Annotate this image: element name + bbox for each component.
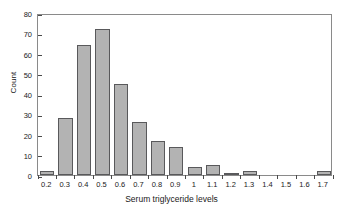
- x-tick-mark: [111, 175, 112, 179]
- y-tick-label: 20: [24, 132, 32, 141]
- y-tick-label: 80: [24, 10, 32, 19]
- histogram-figure: Count 01020304050607080 0.20.30.40.50.60…: [0, 0, 343, 213]
- y-tick-mark: [38, 96, 42, 97]
- bar-0.3: [58, 118, 72, 175]
- bar-1.2: [224, 173, 238, 175]
- y-tick-mark: [38, 116, 42, 117]
- bar-0.9: [169, 147, 183, 175]
- x-axis-title: Serum triglyceride levels: [0, 194, 343, 204]
- y-tick-mark: [38, 35, 42, 36]
- x-tick-label-1.3: 1.3: [240, 180, 258, 189]
- bar-0.7: [132, 122, 146, 175]
- x-tick-mark: [259, 175, 260, 179]
- x-tick-mark: [38, 175, 39, 179]
- y-tick-label: 30: [24, 111, 32, 120]
- y-axis-title: Count: [9, 48, 18, 118]
- bar-0.4: [77, 45, 91, 175]
- bar-0.5: [95, 29, 109, 175]
- bar-0.6: [114, 84, 128, 175]
- x-tick-mark: [93, 175, 94, 179]
- x-tick-mark: [130, 175, 131, 179]
- x-tick-label-1.5: 1.5: [277, 180, 295, 189]
- bar-0.8: [151, 141, 165, 175]
- x-tick-label-1: 1: [185, 180, 203, 189]
- x-tick-label-0.5: 0.5: [92, 180, 110, 189]
- x-tick-mark: [56, 175, 57, 179]
- y-tick-label: 50: [24, 71, 32, 80]
- x-tick-mark: [314, 175, 315, 179]
- x-tick-label-0.7: 0.7: [129, 180, 147, 189]
- y-tick-mark: [38, 177, 42, 178]
- x-tick-label-0.2: 0.2: [37, 180, 55, 189]
- y-tick-mark: [38, 15, 42, 16]
- y-tick-mark: [38, 55, 42, 56]
- bar-0.2: [40, 171, 54, 175]
- x-tick-label-1.2: 1.2: [221, 180, 239, 189]
- y-tick-label: 10: [24, 152, 32, 161]
- y-tick-label: 60: [24, 51, 32, 60]
- y-tick-label: 0: [28, 172, 32, 181]
- x-tick-label-1.4: 1.4: [258, 180, 276, 189]
- y-tick-label: 40: [24, 91, 32, 100]
- x-tick-mark: [333, 175, 334, 179]
- bar-1.7: [317, 171, 331, 175]
- bar-1.3: [243, 171, 257, 175]
- x-tick-mark: [74, 175, 75, 179]
- x-tick-mark: [240, 175, 241, 179]
- y-tick-label: 70: [24, 30, 32, 39]
- x-tick-label-1.1: 1.1: [203, 180, 221, 189]
- x-tick-mark: [185, 175, 186, 179]
- x-tick-mark: [167, 175, 168, 179]
- x-tick-label-0.8: 0.8: [148, 180, 166, 189]
- x-tick-mark: [277, 175, 278, 179]
- x-tick-label-0.6: 0.6: [111, 180, 129, 189]
- y-tick-mark: [38, 75, 42, 76]
- x-tick-mark: [148, 175, 149, 179]
- x-tick-label-1.6: 1.6: [295, 180, 313, 189]
- x-tick-mark: [203, 175, 204, 179]
- y-tick-mark: [38, 136, 42, 137]
- x-tick-mark: [222, 175, 223, 179]
- plot-area: 01020304050607080: [37, 14, 332, 176]
- bar-1.1: [206, 165, 220, 175]
- x-tick-label-1.7: 1.7: [314, 180, 332, 189]
- x-tick-label-0.3: 0.3: [55, 180, 73, 189]
- x-tick-label-0.9: 0.9: [166, 180, 184, 189]
- x-tick-mark: [296, 175, 297, 179]
- bar-1: [188, 167, 202, 175]
- y-tick-mark: [38, 156, 42, 157]
- x-tick-label-0.4: 0.4: [74, 180, 92, 189]
